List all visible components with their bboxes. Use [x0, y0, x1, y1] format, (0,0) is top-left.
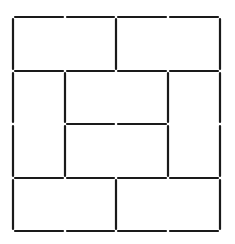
- matchstick-grid: [0, 0, 235, 244]
- matchsticks-group: [13, 17, 220, 231]
